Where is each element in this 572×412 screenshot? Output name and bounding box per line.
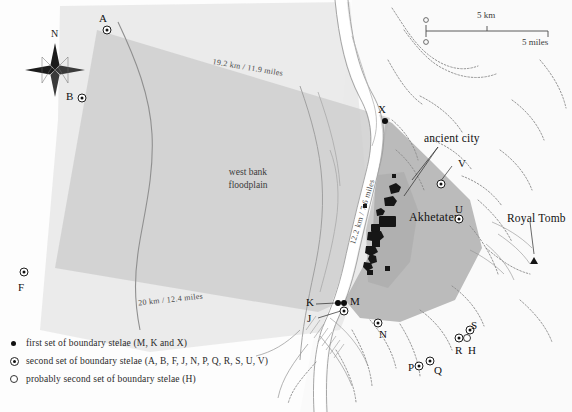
stela-label-K: K — [306, 297, 314, 308]
stela-label-N: N — [379, 329, 387, 340]
legend-row-first-set: first set of boundary stelae (M, K and X… — [10, 334, 268, 352]
compass-north-label: N — [51, 29, 58, 39]
stela-label-X: X — [378, 104, 386, 115]
stela-marker-X[interactable] — [382, 118, 388, 124]
map-canvas: N 5 km 5 miles 19.2 km / 11.9 miles 20 k… — [0, 0, 572, 412]
west-bank-floodplain-label: west bank floodplain — [205, 166, 291, 192]
legend-text-first-set: first set of boundary stelae (M, K and X… — [26, 338, 187, 348]
legend: first set of boundary stelae (M, K and X… — [10, 334, 268, 388]
stela-label-H: H — [468, 345, 476, 356]
hollow-circle-icon — [10, 375, 26, 383]
stela-marker-B[interactable] — [78, 94, 87, 103]
legend-row-probable-second-set: probably second set of boundary stelae (… — [10, 370, 268, 388]
scale-km-label: 5 km — [477, 11, 495, 20]
stela-label-U: U — [455, 204, 463, 215]
legend-text-second-set: second set of boundary stelae (A, B, F, … — [26, 356, 268, 366]
stela-label-M: M — [350, 296, 360, 307]
floodplain-line-1: west bank — [205, 166, 291, 179]
stela-marker-P[interactable] — [415, 362, 424, 371]
stela-label-A: A — [99, 13, 107, 24]
legend-row-second-set: second set of boundary stelae (A, B, F, … — [10, 352, 268, 370]
stela-label-S: S — [471, 320, 477, 331]
ancient-city-label: ancient city — [424, 133, 480, 145]
stela-marker-V[interactable] — [437, 180, 446, 189]
scale-miles-label: 5 miles — [522, 38, 548, 47]
stela-marker-N[interactable] — [374, 319, 383, 328]
stela-marker-J[interactable] — [340, 307, 349, 316]
stela-label-J: J — [307, 313, 311, 324]
stela-marker-U[interactable] — [455, 215, 464, 224]
stela-label-F: F — [18, 282, 24, 293]
filled-dot-icon — [10, 341, 26, 346]
stela-label-R: R — [455, 345, 462, 356]
legend-text-probable-second-set: probably second set of boundary stelae (… — [26, 374, 196, 384]
stela-label-P: P — [408, 362, 414, 373]
stela-label-Q: Q — [434, 365, 442, 376]
stela-label-B: B — [66, 91, 73, 102]
stela-marker-A[interactable] — [103, 26, 112, 35]
stela-marker-H[interactable] — [463, 334, 471, 342]
stela-label-V: V — [458, 158, 466, 169]
stela-marker-M[interactable] — [341, 300, 347, 306]
stela-marker-F[interactable] — [20, 268, 29, 277]
royal-tomb-label: Royal Tomb — [507, 213, 566, 225]
floodplain-line-2: floodplain — [205, 179, 291, 192]
akhetaten-label: Akhetaten — [409, 211, 460, 223]
circled-dot-icon — [10, 357, 26, 366]
